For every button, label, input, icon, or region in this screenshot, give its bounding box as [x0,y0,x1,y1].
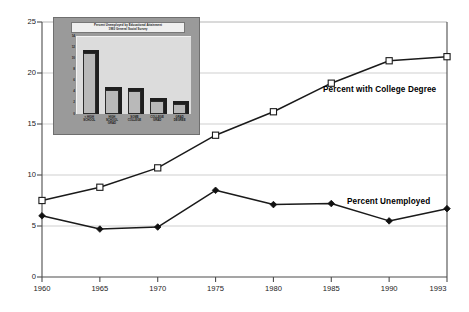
inset-bar: COLLEGEGRAD [150,101,164,114]
inset-bar: SOMECOLLEGE [128,91,142,114]
inset-title-line-2: 1993 General Social Survey [72,28,184,32]
inset-bar-top-face [105,87,119,90]
inset-y-tick-label: 2 [73,101,75,104]
y-tick-label: 15 [14,119,36,128]
inset-bar-top-face [150,98,164,101]
x-tick-label: 1975 [199,284,233,293]
inset-bar-side-face [119,87,122,114]
x-tick-label: 1980 [256,284,290,293]
series-label-college-degree: Percent with College Degree [323,85,436,94]
data-point-marker-square [97,184,103,190]
inset-y-axis: 14121086420 [65,36,76,114]
x-tick-label: 1960 [25,284,59,293]
inset-bar-category-label: < HIGHSCHOOL [83,116,95,122]
data-point-marker-diamond [328,200,335,207]
x-tick-label: 1985 [314,284,348,293]
inset-bar-side-face [186,101,189,114]
series-label-unemployed: Percent Unemployed [347,197,430,206]
inset-bar-side-face [141,88,144,114]
inset-bars-container: < HIGHSCHOOLHIGHSCHOOLGRADSOMECOLLEGECOL… [78,36,191,114]
inset-y-tick-label: 8 [73,68,75,71]
inset-bar-side-face [96,50,99,114]
y-tick-label: 20 [14,68,36,77]
inset-bar-category-label: HIGHSCHOOLGRAD [106,116,118,126]
inset-chart-title: Percent Unemployed by Educational Attain… [71,22,185,33]
inset-bar-front-face [105,90,119,114]
inset-bar: < HIGHSCHOOL [83,53,97,114]
data-point-marker-diamond [270,201,277,208]
inset-y-tick-label: 14 [72,35,75,38]
inset-bar-side-face [164,98,167,114]
inset-y-tick-label: 6 [73,79,75,82]
inset-bar: HIGHSCHOOLGRAD [105,90,119,114]
x-tick-label: 1993 [421,284,455,293]
data-point-marker-square [386,58,392,64]
data-point-marker-square [270,109,276,115]
inset-bar-chart-panel: Percent Unemployed by Educational Attain… [53,17,200,135]
inset-y-tick-label: 0 [73,113,75,116]
inset-bar-top-face [173,101,187,104]
data-point-marker-diamond [97,226,104,233]
inset-bar: GRADDEGREE [173,104,187,114]
inset-bar-top-face [83,50,97,53]
y-tick-label: 25 [14,17,36,26]
inset-bar-category-label: COLLEGEGRAD [150,116,164,122]
data-point-marker-square [155,165,161,171]
data-point-marker-diamond [386,218,393,225]
inset-bar-front-face [173,104,187,114]
inset-bar-category-label: GRADDEGREE [174,116,186,122]
x-tick-label: 1990 [372,284,406,293]
inset-bar-top-face [128,88,142,91]
y-tick-label: 10 [14,170,36,179]
y-tick-label: 5 [14,221,36,230]
data-point-marker-square [39,197,45,203]
inset-bar-front-face [83,53,97,114]
data-point-marker-square [444,54,450,60]
data-point-marker-diamond [444,205,451,212]
y-tick-label: 0 [14,272,36,281]
data-point-marker-square [212,132,218,138]
inset-y-tick-label: 10 [72,57,75,60]
x-tick-label: 1965 [83,284,117,293]
chart-figure: Percent Unemployed by Educational Attain… [0,0,469,312]
inset-y-tick-label: 12 [72,46,75,49]
inset-bar-front-face [128,91,142,114]
data-point-marker-diamond [39,213,46,220]
inset-y-tick-label: 4 [73,90,75,93]
inset-bar-front-face [150,101,164,114]
x-tick-label: 1970 [141,284,175,293]
inset-bar-category-label: SOMECOLLEGE [128,116,142,122]
